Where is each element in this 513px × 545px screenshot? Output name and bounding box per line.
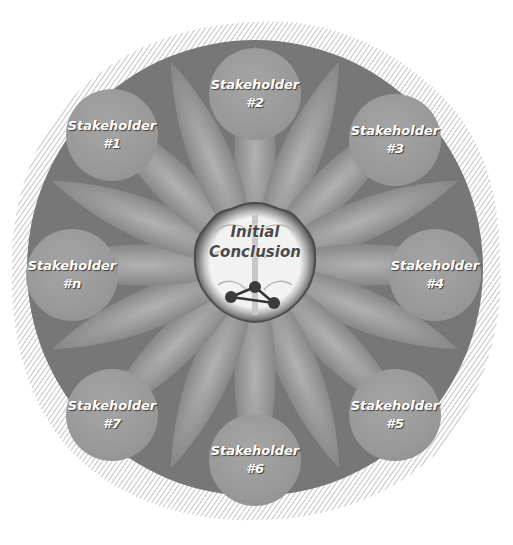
node-label: Stakeholder (211, 76, 300, 94)
node-label: Stakeholder (68, 117, 157, 135)
node-number: #6 (246, 460, 264, 478)
stakeholder-node-7[interactable]: Stakeholder #7 (66, 369, 158, 461)
stakeholder-node-6[interactable]: Stakeholder #6 (209, 414, 301, 506)
node-label: Stakeholder (351, 122, 440, 140)
stakeholder-node-4[interactable]: Stakeholder #4 (389, 229, 481, 321)
node-number: #1 (103, 135, 121, 153)
node-label: Stakeholder (68, 397, 157, 415)
center-label-line2: Conclusion (195, 242, 315, 262)
node-label: Stakeholder (28, 257, 117, 275)
center-label-line1: Initial (195, 222, 315, 242)
stakeholder-node-1[interactable]: Stakeholder #1 (66, 89, 158, 181)
node-number: #n (63, 275, 81, 293)
stakeholder-node-2[interactable]: Stakeholder #2 (209, 48, 301, 140)
node-label: Stakeholder (391, 257, 480, 275)
node-number: #7 (103, 415, 121, 433)
node-label: Stakeholder (351, 397, 440, 415)
stakeholder-node-3[interactable]: Stakeholder #3 (349, 94, 441, 186)
node-number: #2 (246, 94, 264, 112)
node-number: #4 (426, 275, 444, 293)
center-hub-label: Initial Conclusion (195, 222, 315, 262)
node-number: #5 (386, 415, 404, 433)
stakeholder-diagram: Initial Conclusion Stakeholder #2 Stakeh… (0, 0, 513, 545)
stakeholder-node-n[interactable]: Stakeholder #n (26, 229, 118, 321)
stakeholder-node-5[interactable]: Stakeholder #5 (349, 369, 441, 461)
node-label: Stakeholder (211, 442, 300, 460)
node-number: #3 (386, 140, 404, 158)
